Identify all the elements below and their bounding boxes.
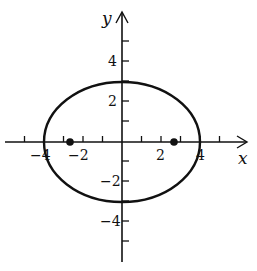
- x-tick-label-neg4: −4: [30, 147, 51, 163]
- y-axis-label: y: [101, 8, 112, 28]
- y-tick-label-neg4: −4: [100, 213, 121, 229]
- x-tick-label-pos4: 4: [196, 147, 205, 163]
- y-tick-label-pos2: 2: [108, 93, 117, 109]
- y-tick-label-pos4: 4: [108, 53, 117, 69]
- y-ticks: [122, 41, 129, 241]
- x-axis-label: x: [238, 148, 248, 168]
- focus-point-right: [170, 138, 178, 146]
- x-tick-label-pos2: 2: [156, 147, 165, 163]
- focus-point-left: [66, 138, 74, 146]
- y-tick-label-neg2: −2: [100, 173, 121, 189]
- x-tick-label-neg2: −2: [68, 147, 89, 163]
- ellipse-graph: −4 −2 2 4 4 2 −2 −4 x y: [0, 0, 257, 271]
